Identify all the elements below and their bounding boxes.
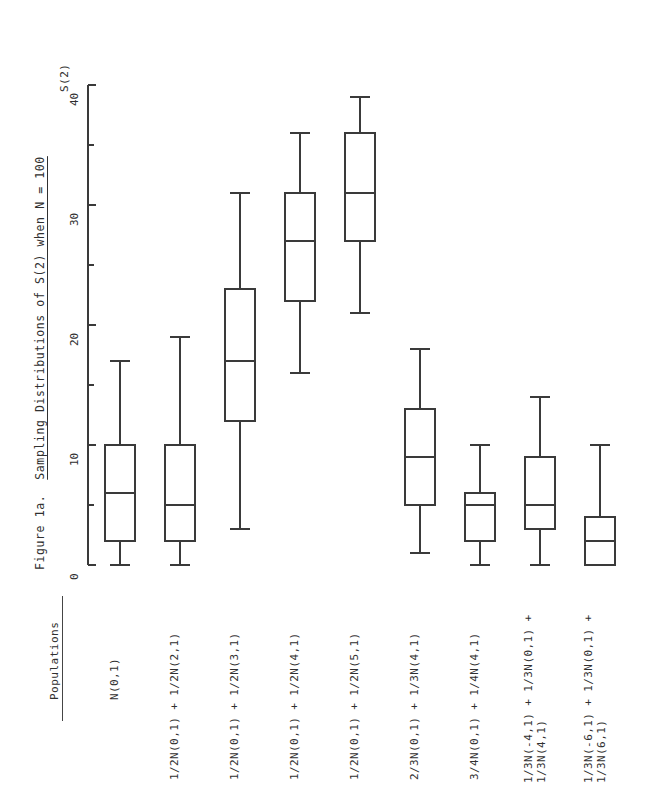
box-iqr <box>165 445 195 541</box>
box-iqr <box>345 133 375 241</box>
boxplot-item <box>345 97 375 313</box>
boxplot-item <box>285 133 315 373</box>
boxplot-item <box>405 349 435 553</box>
boxplot-item <box>225 193 255 529</box>
figure-container: Figure 1a. Sampling Distributions of S(2… <box>0 0 663 787</box>
boxplot-item <box>105 361 135 565</box>
box-iqr <box>465 493 495 541</box>
box-iqr <box>525 457 555 529</box>
boxplot-canvas <box>0 0 663 787</box>
boxplot-series <box>105 97 615 565</box>
boxplot-item <box>165 337 195 565</box>
boxplot-item <box>525 397 555 565</box>
boxplot-item <box>585 445 615 565</box>
y-axis-ticks <box>88 85 96 565</box>
box-iqr <box>225 289 255 421</box>
box-iqr <box>285 193 315 301</box>
boxplot-item <box>465 445 495 565</box>
